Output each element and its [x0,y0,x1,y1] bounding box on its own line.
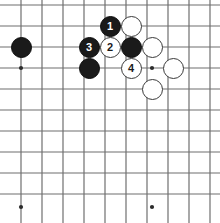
stone-black-b-left [11,37,32,58]
stone-white-w-bottom [142,79,163,100]
stone-black-b-mid [121,37,142,58]
stone-white-w-top-right [121,16,142,37]
stone-black-move-1: 1 [100,16,121,37]
stone-label: 4 [128,62,134,73]
stone-white-w-mid-right [142,37,163,58]
star-point-bottom-center-icon [150,205,154,209]
star-point-bottom-left-icon [19,205,23,209]
stone-white-move-2: 2 [100,37,121,58]
stone-label: 3 [86,41,92,52]
stone-label: 2 [107,41,113,52]
stone-label: 1 [107,20,113,31]
stone-black-b-lower [79,58,100,79]
stone-black-move-3: 3 [79,37,100,58]
star-point-left-icon [19,66,23,70]
stone-white-move-4: 4 [121,58,142,79]
stone-white-w-right [163,58,184,79]
star-point-center-icon [150,66,154,70]
go-board-diagram: 1324 [0,0,220,223]
